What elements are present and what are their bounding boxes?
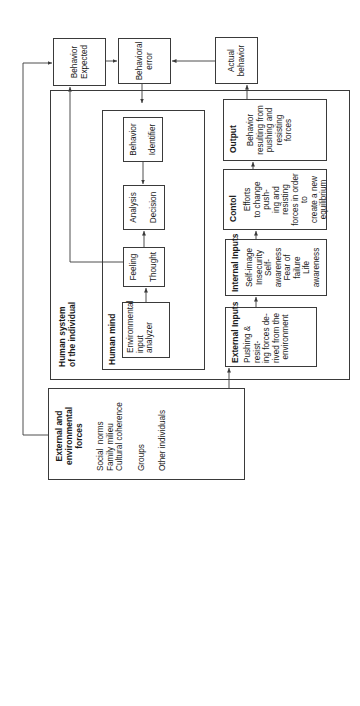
analysis-label: Analysis xyxy=(129,192,139,223)
output-line: Behavior xyxy=(246,103,256,157)
behavior-expected-line2: Expected xyxy=(80,45,90,79)
output-box: Output Behavior resulting from pushing a… xyxy=(223,99,327,161)
human-mind-title: Human mind xyxy=(107,314,117,365)
external-forces-title: External and environmental forces xyxy=(54,401,84,471)
human-system-title: Human system of the individual xyxy=(57,302,77,367)
behavioral-error-line1: Behavioral xyxy=(135,42,145,81)
internal-inputs-title: Internal Inputs xyxy=(230,243,240,292)
output-line: pushing and xyxy=(265,103,275,157)
actual-behavior-box: Actual behavior xyxy=(215,37,258,84)
human-system-title-line1: Human system xyxy=(57,302,67,367)
decision-label: Decision xyxy=(149,192,159,223)
external-inputs-line: ing forces de- xyxy=(262,311,272,363)
behavior-system-diagram: Behavior Expected Behavioral error Actua… xyxy=(0,0,360,706)
control-line: to change push- xyxy=(253,173,272,226)
environmental-input-analyzer-box: Environmental input analyzer xyxy=(122,302,170,358)
external-forces-box: External and environmental forces Social… xyxy=(48,388,245,480)
behavior-identifier-line2: Identifier xyxy=(148,124,158,155)
internal-inputs-line: Self-image xyxy=(245,243,255,292)
env-analyzer-line2: input xyxy=(136,307,146,353)
control-line: equilibrium xyxy=(319,173,329,226)
control-line: Efforts xyxy=(243,173,253,226)
control-box: Contol Efforts to change push- ing and r… xyxy=(223,169,327,230)
actual-behavior-line2: behavior xyxy=(237,45,247,76)
control-line: create a new xyxy=(310,173,320,226)
behavioral-error-line2: error xyxy=(145,52,155,69)
internal-inputs-line: Insecurity xyxy=(255,243,265,292)
thought-label: Thought xyxy=(149,252,159,282)
output-line: resisting forces xyxy=(275,103,294,157)
external-force-item: Social norms xyxy=(96,393,106,471)
external-inputs-line: environment xyxy=(281,311,291,363)
internal-inputs-line: Self-awareness xyxy=(264,243,283,292)
behavior-expected-line1: Behavior xyxy=(70,46,80,78)
env-analyzer-line1: Environmental xyxy=(126,307,136,353)
external-inputs-title: External Inputs xyxy=(230,311,240,363)
feeling-label: Feeling xyxy=(129,254,139,281)
control-line: forces in order to xyxy=(291,173,310,226)
analysis-decision-box: Analysis Decision xyxy=(123,185,165,230)
control-line: ing and resisting xyxy=(272,173,291,226)
external-force-item: Family milieu xyxy=(106,393,116,471)
control-title: Contol xyxy=(228,173,238,226)
external-force-item: Groups xyxy=(137,393,147,471)
internal-inputs-line: Fear of failure xyxy=(283,243,302,292)
internal-inputs-line: Life awareness xyxy=(302,243,321,292)
output-line: resulting from xyxy=(256,103,266,157)
actual-behavior-line1: Actual xyxy=(227,49,237,72)
output-title: Output xyxy=(228,103,238,157)
behavior-expected-box: Behavior Expected xyxy=(53,38,106,86)
external-force-item: Cultural coherence xyxy=(115,393,125,471)
external-force-item: Other individuals xyxy=(158,393,168,471)
external-inputs-line: Pushing & resist- xyxy=(243,311,262,363)
behavioral-error-box: Behavioral error xyxy=(118,38,171,84)
behavior-identifier-box: Behavior Identifier xyxy=(123,117,163,162)
external-inputs-line: rived from the xyxy=(272,311,282,363)
behavior-identifier-line1: Behavior xyxy=(129,123,139,155)
external-inputs-box: External Inputs Pushing & resist- ing fo… xyxy=(225,307,317,367)
env-analyzer-line3: analyzer xyxy=(145,307,155,353)
internal-inputs-box: Internal Inputs Self-image Insecurity Se… xyxy=(225,239,327,296)
feeling-thought-box: Feeling Thought xyxy=(123,247,165,287)
human-system-title-line2: of the individual xyxy=(67,302,77,367)
